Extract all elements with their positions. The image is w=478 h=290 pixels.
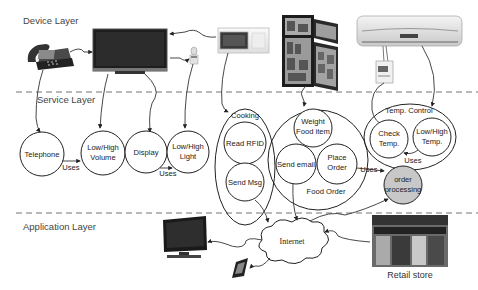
edge-send-email-to-internet: [293, 183, 297, 220]
read-rfid-label: Read RFID: [226, 139, 264, 148]
check-temp-label-1: Check: [378, 129, 400, 138]
order-processing-label-1: order: [394, 175, 412, 184]
internet-label: Internet: [280, 237, 306, 246]
retail-store-label: Retail store: [387, 270, 433, 280]
low-high-temp-label-2: Temp.: [422, 137, 443, 146]
thermostat-sensor-device-icon: [376, 46, 393, 83]
device-layer-label: Device Layer: [23, 15, 78, 26]
uses-label-1: Uses: [62, 163, 80, 172]
edge-bulb-to-light: [185, 64, 193, 128]
tv-monitor-device-icon: [93, 29, 167, 74]
edge-fridge-to-food-order: [302, 86, 307, 106]
place-order-label-2: Order: [327, 163, 347, 172]
uses-label-3: Uses: [404, 156, 422, 165]
edge-internet-to-handheld: [250, 258, 270, 268]
uses-arrow-temp: [404, 150, 418, 154]
place-order-label-1: Place: [328, 153, 347, 162]
refrigerator-device-icon: [282, 15, 338, 91]
retail-store-photo: [372, 215, 448, 267]
edge-tv-to-display: [145, 74, 156, 132]
temp-control-group-label: Temp. Control: [385, 106, 433, 115]
telephone-service-label: Telephone: [24, 150, 59, 159]
weight-food-item-label-1: Weight: [301, 117, 325, 126]
edge-microwave-to-cooking: [222, 53, 228, 112]
send-email-label: Send email: [277, 160, 315, 169]
cable-phone-to-tv: [70, 49, 92, 52]
air-conditioner-device-icon: [357, 16, 462, 46]
low-high-volume-label-2: Volume: [90, 153, 115, 162]
weight-food-item-label-2: Food item: [296, 127, 330, 136]
application-layer-label: Application Layer: [23, 221, 96, 232]
uses-label-2: Uses: [159, 169, 177, 178]
edge-sensor-to-check-temp: [372, 83, 385, 126]
desktop-monitor-icon: [163, 216, 207, 258]
food-order-group-label: Food Order: [307, 187, 346, 196]
low-high-temp-label-1: Low/High: [416, 127, 448, 136]
uses-label-4: Uses: [360, 165, 378, 174]
edge-store-to-internet: [325, 231, 370, 242]
display-service-label: Display: [134, 148, 159, 157]
cooking-group-label: Cooking: [231, 111, 259, 120]
low-high-light-label-1: Low/High: [172, 142, 204, 151]
low-high-light-label-2: Light: [180, 152, 197, 161]
edge-send-msg-to-internet: [255, 200, 268, 222]
order-processing-label-2: processing: [385, 185, 422, 194]
service-layer-label: Service Layer: [37, 94, 95, 105]
edge-ac-to-temp-control: [422, 46, 434, 106]
check-temp-label-2: Temp.: [379, 139, 400, 148]
iot-layer-diagram: Device Layer Service Layer Application L…: [0, 0, 478, 290]
telephone-device-icon: [28, 44, 74, 70]
edge-tv-to-volume: [100, 74, 108, 128]
cable-microwave-to-tv: [170, 30, 216, 37]
handheld-device-icon: [232, 258, 248, 278]
send-msg-label: Send Msg: [228, 178, 262, 187]
microwave-device-icon: [218, 28, 269, 53]
edge-internet-to-monitor: [208, 239, 262, 247]
light-bulb-device-icon: [190, 47, 198, 64]
cable-tv-to-bulb: [170, 58, 189, 60]
low-high-volume-label-1: Low/High: [87, 143, 119, 152]
